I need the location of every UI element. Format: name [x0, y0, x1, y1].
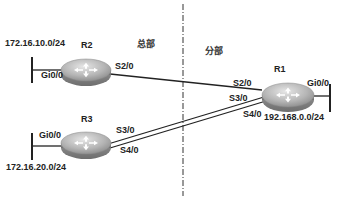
network-r1-lan: 192.168.0.0/24 [264, 113, 324, 122]
iface-r1-s2-0: S2/0 [233, 79, 252, 88]
iface-r2-gi0-0: Gi0/0 [41, 71, 63, 80]
network-r3-lan: 172.16.20.0/24 [6, 163, 66, 172]
network-r2-lan: 172.16.10.0/24 [5, 39, 65, 48]
router-r2-label: R2 [81, 41, 93, 50]
link-r3-r1-s3 [108, 97, 264, 144]
iface-r3-s3-0: S3/0 [116, 126, 135, 135]
router-r3-icon [61, 132, 111, 159]
iface-r1-s4-0: S4/0 [243, 110, 262, 119]
zone-label-headquarters: 总部 [137, 40, 155, 49]
iface-r2-s2-0: S2/0 [115, 62, 134, 71]
router-r2-icon [61, 59, 111, 86]
network-topology-diagram: 总部 分部 R2 R3 R1 172.16.10.0/24 172.16.20.… [0, 0, 348, 202]
iface-r3-gi0-0: Gi0/0 [39, 131, 61, 140]
iface-r1-s3-0: S3/0 [229, 94, 248, 103]
router-r1-label: R1 [274, 65, 286, 74]
iface-r1-gi0-0: Gi0/0 [307, 79, 329, 88]
zone-label-branch: 分部 [205, 47, 223, 56]
iface-r3-s4-0: S4/0 [120, 146, 139, 155]
router-r3-label: R3 [81, 115, 93, 124]
